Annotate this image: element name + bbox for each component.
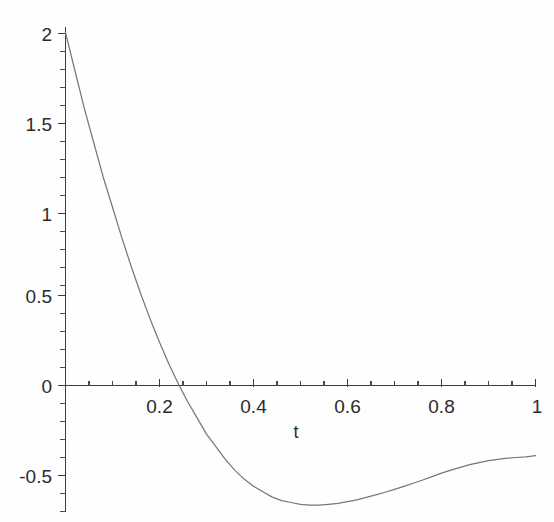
x-tick-label-0-8: 0.8 [428,396,454,417]
y-tick-label-2: 2 [41,24,52,45]
x-tick-label-0-6: 0.6 [334,396,360,417]
plot-area: 2 1.5 1 0.5 0 -0.5 0.2 0.4 0.6 0.8 1 t [0,0,554,522]
y-tick-label-0: 0 [41,376,52,397]
y-tick-label-1-5: 1.5 [26,114,52,135]
y-tick-label-neg-0-5: -0.5 [19,466,52,487]
x-axis-title: t [293,422,298,442]
y-tick-label-1: 1 [41,204,52,225]
x-tick-label-0-4: 0.4 [240,396,267,417]
x-tick-label-1: 1 [532,396,543,417]
data-series-curve [66,33,536,506]
x-tick-label-0-2: 0.2 [146,396,172,417]
function-plot-svg: 2 1.5 1 0.5 0 -0.5 0.2 0.4 0.6 0.8 1 t [0,0,554,522]
y-tick-label-0-5: 0.5 [26,286,52,307]
